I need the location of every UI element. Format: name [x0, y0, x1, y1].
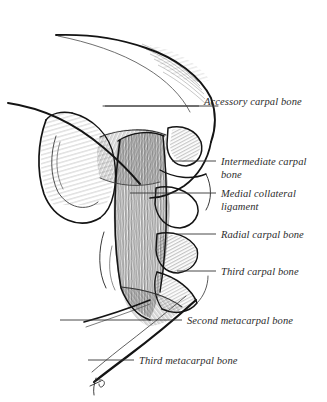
illustration-page: Accessory carpal boneIntermediate carpal…: [0, 0, 327, 402]
label-radial-carpal-bone: Radial carpal bone: [221, 228, 304, 241]
label-intermediate-carpal-bone: Intermediate carpal bone: [221, 155, 307, 181]
outline-layer: [8, 35, 218, 382]
label-accessory-carpal-bone: Accessory carpal bone: [204, 95, 302, 108]
label-third-carpal-bone: Third carpal bone: [221, 265, 299, 278]
label-medial-collateral-ligament: Medial collateral ligament: [221, 187, 296, 213]
label-second-metacarpal-bone: Second metacarpal bone: [187, 314, 293, 327]
label-third-metacarpal-bone: Third metacarpal bone: [139, 354, 238, 367]
